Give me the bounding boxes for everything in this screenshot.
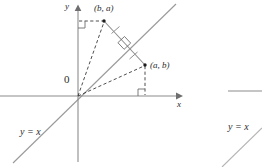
segment-point-ba-to-point-ab (104, 21, 145, 65)
point-marker-ab (143, 63, 146, 66)
right-angle-marker-y-axis (78, 21, 85, 28)
partial-identity-line-label: y = x (228, 122, 249, 132)
y-axis-arrowhead (75, 5, 82, 12)
figure-canvas (0, 0, 262, 167)
dash-origin-to-point-ba (78, 22, 104, 96)
partial-identity-line (222, 128, 262, 167)
point-label-ba: (b, a) (94, 4, 114, 13)
identity-line (13, 4, 176, 163)
y-axis-label: y (65, 2, 69, 11)
point-marker-ba (102, 19, 105, 22)
origin-label: 0 (64, 74, 70, 85)
x-axis-label: x (177, 100, 181, 109)
point-label-ab: (a, b) (150, 61, 170, 70)
figure-root: y x 0 (b, a) (a, b) y = x y = x (0, 0, 262, 167)
identity-line-label: y = x (20, 127, 41, 137)
dash-origin-to-point-ab (78, 66, 144, 96)
right-angle-marker-x-axis (138, 89, 145, 96)
main-figure-group (0, 4, 183, 163)
